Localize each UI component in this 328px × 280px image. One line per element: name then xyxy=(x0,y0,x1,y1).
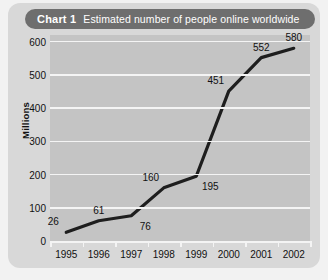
y-axis-tick-label: 600 xyxy=(20,36,46,47)
data-point-label: 451 xyxy=(207,75,224,86)
y-axis-tick-label: 0 xyxy=(20,236,46,247)
y-axis-tick-label: 300 xyxy=(20,136,46,147)
x-axis-tick xyxy=(115,241,117,247)
data-point-label: 580 xyxy=(285,32,302,43)
y-axis-tick-label: 400 xyxy=(20,103,46,114)
data-point-label: 552 xyxy=(253,41,270,52)
data-point-label: 160 xyxy=(142,171,159,182)
x-axis-tick xyxy=(278,241,280,247)
x-axis-tick-label: 1997 xyxy=(120,249,142,260)
chart-plot-region: Millions 0100200300400500600 19951996199… xyxy=(8,31,320,268)
x-axis-tick xyxy=(148,241,150,247)
line-series xyxy=(50,35,310,241)
x-axis-tick xyxy=(50,241,52,247)
x-axis-tick-label: 1995 xyxy=(55,249,77,260)
x-axis-tick-label: 1999 xyxy=(185,249,207,260)
x-axis-tick xyxy=(310,241,312,247)
chart-title-bar: Chart 1 Estimated number of people onlin… xyxy=(25,9,315,29)
y-axis-tick-label: 200 xyxy=(20,169,46,180)
gridline xyxy=(50,207,310,209)
chart-number-label: Chart 1 xyxy=(37,13,76,25)
x-axis-tick-label: 2001 xyxy=(250,249,272,260)
x-axis-tick xyxy=(213,241,215,247)
x-axis-tick xyxy=(83,241,85,247)
y-axis-tick-labels: 0100200300400500600 xyxy=(20,31,46,268)
plot-area xyxy=(50,35,310,241)
gridline xyxy=(50,41,310,43)
gridline xyxy=(50,174,310,176)
data-point-label: 76 xyxy=(140,220,151,231)
chart-title-label: Estimated number of people online worldw… xyxy=(83,13,299,25)
chart-card: Chart 1 Estimated number of people onlin… xyxy=(8,3,320,268)
y-axis-tick-label: 500 xyxy=(20,69,46,80)
data-point-label: 61 xyxy=(93,204,104,215)
x-axis-tick xyxy=(180,241,182,247)
x-axis-tick-label: 1996 xyxy=(88,249,110,260)
y-axis-tick-label: 100 xyxy=(20,202,46,213)
x-axis-tick xyxy=(245,241,247,247)
x-axis-tick-label: 2000 xyxy=(218,249,240,260)
x-axis-tick-label: 1998 xyxy=(153,249,175,260)
gridline xyxy=(50,141,310,143)
x-axis-tick-label: 2002 xyxy=(283,249,305,260)
gridline xyxy=(50,107,310,109)
data-point-label: 195 xyxy=(202,181,219,192)
gridline xyxy=(50,74,310,76)
data-point-label: 26 xyxy=(48,216,59,227)
